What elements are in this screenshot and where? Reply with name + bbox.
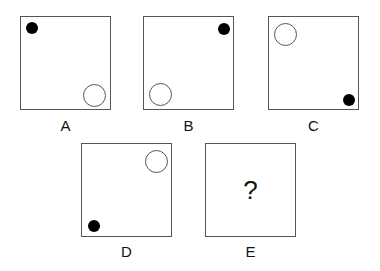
hollow-circle xyxy=(274,23,297,46)
panel-b xyxy=(143,16,234,110)
hollow-circle xyxy=(149,83,172,106)
panel-d xyxy=(81,143,172,237)
panel-e: ? xyxy=(205,143,296,237)
filled-dot xyxy=(26,22,38,34)
filled-dot xyxy=(88,220,100,232)
panel-d-label: D xyxy=(81,243,172,260)
hollow-circle xyxy=(145,150,168,173)
panel-b-label: B xyxy=(143,117,234,134)
filled-dot xyxy=(218,23,230,35)
question-mark: ? xyxy=(206,144,295,236)
panel-c xyxy=(268,16,359,110)
panel-a xyxy=(20,16,111,110)
hollow-circle xyxy=(83,84,106,107)
panel-e-label: E xyxy=(205,243,296,260)
filled-dot xyxy=(343,94,355,106)
panel-a-label: A xyxy=(20,117,111,134)
panel-c-label: C xyxy=(268,117,359,134)
